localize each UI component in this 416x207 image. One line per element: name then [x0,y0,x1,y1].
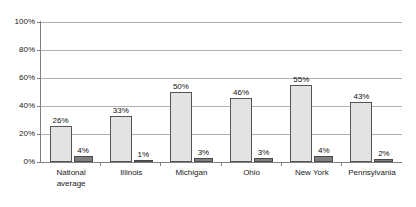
bar-value-label: 3% [258,148,270,157]
y-axis-label-100: 100% [15,18,35,26]
bar-series2-1[interactable]: 1% [134,160,153,162]
bar-series2-4[interactable]: 4% [314,156,333,162]
bar-series1-4[interactable]: 55% [290,85,312,162]
bar-value-label: 2% [378,149,390,158]
bar-value-label: 26% [53,116,69,125]
x-axis-tick [160,162,161,166]
x-axis-labels: National average Illinois Michigan Ohio … [41,167,402,189]
bar-group-illinois: 33% 1% [101,22,161,162]
x-axis-label-line: average [42,178,100,189]
bar-group-new-york: 55% 4% [282,22,342,162]
bar-value-label: 33% [113,106,129,115]
x-axis-tick [100,162,101,166]
x-axis-label-new-york: New York [282,167,342,189]
y-axis-label-40: 40% [19,102,35,110]
bar-groups: 26% 4% 33% 1% 50% [41,22,402,162]
x-axis-label-line: Ohio [223,167,281,178]
bar-series2-3[interactable]: 3% [254,158,273,162]
bar-series1-2[interactable]: 50% [170,92,192,162]
y-tick-mark-0 [37,162,41,163]
x-axis-label-michigan: Michigan [161,167,221,189]
bar-value-label: 4% [318,146,330,155]
bar-series1-0[interactable]: 26% [50,126,72,162]
bar-series2-5[interactable]: 2% [374,159,393,162]
bar-group-pennsylvania: 43% 2% [342,22,402,162]
y-axis-label-80: 80% [19,46,35,54]
bar-value-label: 1% [137,150,149,159]
y-axis-label-60: 60% [19,74,35,82]
bar-value-label: 55% [293,75,309,84]
x-axis-label-ohio: Ohio [222,167,282,189]
x-axis-label-line: Michigan [162,167,220,178]
x-axis-label-illinois: Illinois [101,167,161,189]
bar-group-ohio: 46% 3% [222,22,282,162]
bar-group-national-average: 26% 4% [41,22,101,162]
bar-value-label: 3% [198,148,210,157]
y-axis-label-20: 20% [19,130,35,138]
x-axis-label-pennsylvania: Pennsylvania [342,167,402,189]
x-axis-tick [341,162,342,166]
bar-series2-2[interactable]: 3% [194,158,213,162]
x-axis-label-line: National [42,167,100,178]
bar-group-michigan: 50% 3% [161,22,221,162]
x-axis-label-line: Illinois [102,167,160,178]
bar-value-label: 46% [233,88,249,97]
bar-value-label: 43% [353,92,369,101]
x-axis-tick [221,162,222,166]
bar-chart: 100% 80% 60% 40% 20% 0% 26% 4% 33% [0,0,416,207]
bar-value-label: 4% [77,146,89,155]
bar-series2-0[interactable]: 4% [74,156,93,162]
x-axis-label-national-average: National average [41,167,101,189]
bar-series1-5[interactable]: 43% [350,102,372,162]
y-axis-label-0: 0% [23,158,35,166]
bar-value-label: 50% [173,82,189,91]
bar-series1-1[interactable]: 33% [110,116,132,162]
x-axis-label-line: New York [283,167,341,178]
x-axis-tick [281,162,282,166]
x-axis-label-line: Pennsylvania [343,167,401,178]
bar-series1-3[interactable]: 46% [230,98,252,162]
